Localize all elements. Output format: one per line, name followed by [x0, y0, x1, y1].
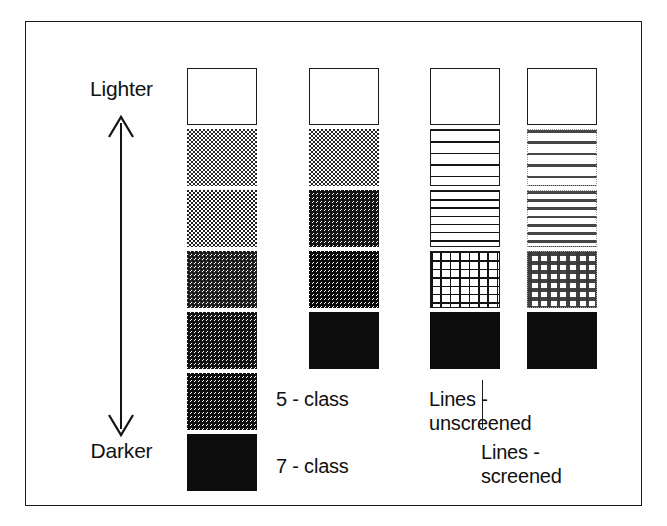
swatch-column-lines-unscreened — [430, 68, 500, 373]
caption-lines-screened: Lines - screened — [481, 440, 562, 488]
axis-label-darker: Darker — [59, 439, 184, 463]
swatch-lines-unscreened-5 — [430, 312, 500, 369]
caption-lines-unscreened: Lines - unscreened — [429, 387, 532, 435]
swatch-5class-1 — [309, 68, 379, 125]
caption-5-class: 5 - class — [276, 387, 349, 411]
leader-line-lines-screened — [482, 380, 483, 428]
swatch-5class-5 — [309, 312, 379, 369]
figure-frame: Lighter Darker — [25, 21, 642, 506]
swatch-5class-4 — [309, 251, 379, 308]
swatch-lines-unscreened-2 — [430, 129, 500, 186]
value-axis-group: Lighter Darker — [59, 77, 184, 477]
swatch-lines-unscreened-1 — [430, 68, 500, 125]
figure-canvas: Lighter Darker — [0, 0, 667, 526]
swatch-7class-2 — [187, 129, 257, 186]
swatch-lines-unscreened-4 — [430, 251, 500, 308]
swatch-lines-screened-1 — [527, 68, 597, 125]
swatch-5class-2 — [309, 129, 379, 186]
swatch-7class-7 — [187, 434, 257, 491]
swatch-7class-4 — [187, 251, 257, 308]
axis-label-lighter: Lighter — [59, 77, 184, 101]
swatch-lines-screened-5 — [527, 312, 597, 369]
caption-7-class: 7 - class — [276, 454, 349, 478]
swatch-lines-unscreened-3 — [430, 190, 500, 247]
swatch-lines-screened-3 — [527, 190, 597, 247]
swatch-column-7-class — [187, 68, 257, 495]
swatch-lines-screened-2 — [527, 129, 597, 186]
swatch-lines-screened-4 — [527, 251, 597, 308]
swatch-7class-5 — [187, 312, 257, 369]
swatch-7class-1 — [187, 68, 257, 125]
swatch-column-lines-screened — [527, 68, 597, 373]
swatch-7class-6 — [187, 373, 257, 430]
swatch-5class-3 — [309, 190, 379, 247]
swatch-7class-3 — [187, 190, 257, 247]
double-arrow-vertical-icon — [59, 111, 184, 441]
swatch-column-5-class — [309, 68, 379, 373]
